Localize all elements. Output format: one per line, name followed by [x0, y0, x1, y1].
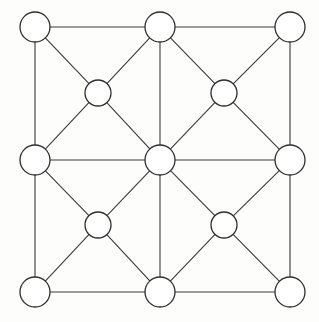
graph-edge-n-q-lr-n-bm: [170, 234, 215, 281]
graph-node-center[interactable]: [145, 145, 175, 175]
graph-edge-n-cc-n-q-lr: [171, 171, 215, 216]
graph-node-quadrant-center-lower-right[interactable]: [211, 212, 237, 238]
node-circle[interactable]: [85, 80, 111, 106]
node-circle[interactable]: [275, 12, 305, 42]
node-circle[interactable]: [275, 277, 305, 307]
graph-edge-n-q-lr-n-br: [233, 234, 279, 281]
node-circle[interactable]: [275, 145, 305, 175]
graph-canvas: [0, 0, 319, 322]
graph-node-corner-bottom-right[interactable]: [275, 277, 305, 307]
graph-edge-n-tm-n-q-ul: [107, 38, 150, 84]
graph-edge-n-q-ul-n-ml: [45, 102, 89, 149]
node-circle[interactable]: [145, 145, 175, 175]
graph-node-edge-bottom-middle[interactable]: [145, 277, 175, 307]
graph-edge-n-ml-n-q-ll: [45, 171, 89, 216]
node-circle[interactable]: [20, 277, 50, 307]
graph-edge-n-q-ll-n-bm: [107, 235, 150, 281]
graph-edge-n-q-ur-n-cc: [170, 102, 215, 149]
graph-edge-n-cc-n-q-ll: [107, 171, 150, 216]
graph-node-edge-top-middle[interactable]: [145, 12, 175, 42]
node-circle[interactable]: [211, 80, 237, 106]
graph-edge-n-tl-n-q-ul: [45, 38, 89, 84]
node-circle[interactable]: [85, 212, 111, 238]
graph-edge-n-tm-n-q-ur: [170, 38, 215, 84]
graph-diagram: [0, 0, 319, 322]
graph-edge-n-tr-n-q-ur: [233, 38, 279, 84]
graph-node-quadrant-center-lower-left[interactable]: [85, 212, 111, 238]
graph-node-corner-top-left[interactable]: [20, 12, 50, 42]
node-circle[interactable]: [145, 12, 175, 42]
graph-edge-n-q-ll-n-bl: [45, 234, 89, 281]
graph-edge-n-q-ur-n-mr: [233, 102, 279, 149]
graph-node-edge-middle-left[interactable]: [20, 145, 50, 175]
node-circle[interactable]: [20, 145, 50, 175]
node-circle[interactable]: [145, 277, 175, 307]
graph-edge-n-mr-n-q-lr: [233, 171, 279, 216]
graph-node-quadrant-center-upper-right[interactable]: [211, 80, 237, 106]
graph-node-quadrant-center-upper-left[interactable]: [85, 80, 111, 106]
node-circle[interactable]: [211, 212, 237, 238]
graph-node-corner-bottom-left[interactable]: [20, 277, 50, 307]
graph-node-corner-top-right[interactable]: [275, 12, 305, 42]
node-circle[interactable]: [20, 12, 50, 42]
graph-node-edge-middle-right[interactable]: [275, 145, 305, 175]
graph-edge-n-q-ul-n-cc: [107, 103, 150, 149]
